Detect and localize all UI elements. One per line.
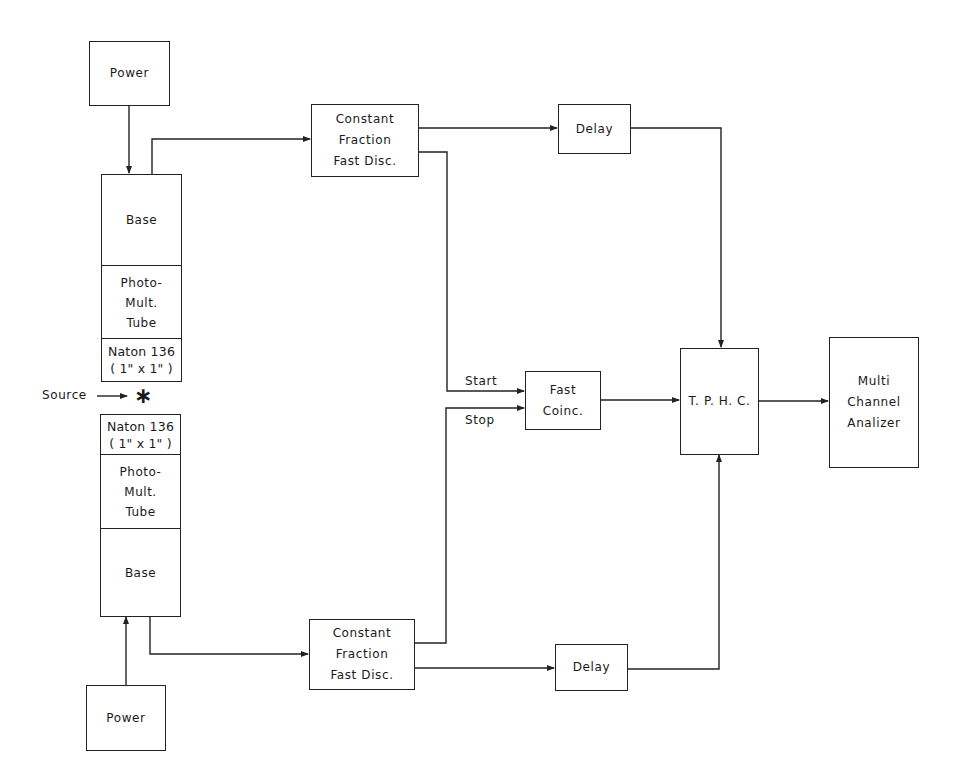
delay-top-label: Delay: [576, 119, 613, 140]
detector-top: Base Photo- Mult. Tube Naton 136 ( 1" x …: [101, 174, 182, 382]
pmt-bottom-label-2: Mult.: [124, 482, 156, 502]
wire-delay-bottom-to-tphc: [627, 455, 719, 669]
power-bottom-label: Power: [106, 708, 145, 729]
cfd-bottom-label-2: Fraction: [336, 644, 389, 665]
power-supply-bottom: Power: [86, 685, 166, 751]
delay-top: Delay: [558, 104, 631, 154]
pmt-bottom-label-1: Photo-: [120, 462, 162, 482]
power-supply-top: Power: [89, 41, 170, 106]
pmt-bottom: Photo- Mult. Tube: [101, 454, 180, 529]
scintillator-top: Naton 136 ( 1" x 1" ): [102, 338, 181, 381]
wire-base-top-to-cfd-top: [152, 139, 310, 174]
tphc: T. P. H. C.: [680, 348, 759, 455]
source-asterisk-icon: ∗: [134, 383, 153, 408]
base-bottom: Base: [101, 528, 180, 616]
pmt-top-label-3: Tube: [126, 313, 156, 333]
wire-stop: [414, 408, 524, 643]
fast-coincidence: Fast Coinc.: [525, 371, 601, 430]
source-label: Source: [42, 388, 87, 402]
detector-bottom: Naton 136 ( 1" x 1" ) Photo- Mult. Tube …: [100, 414, 181, 617]
tphc-label: T. P. H. C.: [689, 391, 751, 412]
delay-bottom-label: Delay: [573, 657, 610, 678]
wire-base-bottom-to-cfd-bottom: [150, 616, 308, 654]
cfd-top-label-2: Fraction: [339, 130, 392, 151]
cfd-bottom-label-1: Constant: [333, 623, 392, 644]
pmt-top-label-2: Mult.: [125, 293, 157, 313]
mca-label-1: Multi: [858, 371, 890, 392]
mca-label-2: Channel: [847, 392, 900, 413]
pmt-top: Photo- Mult. Tube: [102, 265, 181, 339]
scintillator-bottom-label-1: Naton 136: [107, 418, 174, 435]
fast-coinc-label-1: Fast: [550, 380, 577, 401]
scintillator-bottom: Naton 136 ( 1" x 1" ): [101, 415, 180, 454]
wire-start: [418, 152, 524, 391]
cfd-top-label-1: Constant: [336, 109, 395, 130]
stop-label: Stop: [465, 413, 495, 427]
power-top-label: Power: [110, 63, 149, 84]
scintillator-top-label-1: Naton 136: [108, 343, 175, 360]
start-label: Start: [465, 374, 497, 388]
cfd-bottom: Constant Fraction Fast Disc.: [309, 619, 415, 690]
cfd-top-label-3: Fast Disc.: [333, 151, 396, 172]
base-top-label: Base: [126, 210, 157, 230]
base-bottom-label: Base: [125, 563, 156, 583]
multichannel-analyzer: Multi Channel Analizer: [829, 337, 919, 468]
scintillator-bottom-label-2: ( 1" x 1" ): [109, 435, 172, 452]
base-top: Base: [102, 175, 181, 265]
pmt-top-label-1: Photo-: [121, 273, 163, 293]
wire-delay-top-to-tphc: [630, 128, 721, 347]
fast-coinc-label-2: Coinc.: [543, 401, 584, 422]
cfd-top: Constant Fraction Fast Disc.: [311, 104, 419, 177]
pmt-bottom-label-3: Tube: [125, 502, 155, 522]
scintillator-top-label-2: ( 1" x 1" ): [110, 360, 173, 377]
mca-label-3: Analizer: [847, 413, 900, 434]
delay-bottom: Delay: [555, 644, 628, 691]
cfd-bottom-label-3: Fast Disc.: [330, 665, 393, 686]
